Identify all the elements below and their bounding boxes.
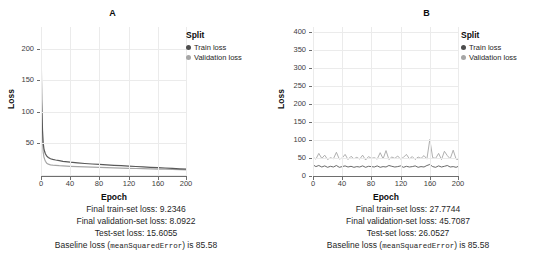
panel-a-xtick-label: 160	[152, 180, 165, 188]
ytick	[309, 68, 312, 69]
train-loss-line-b	[313, 165, 459, 168]
panel-a-xtick-label: 200	[180, 180, 193, 188]
gridline-v	[401, 27, 402, 176]
panel-b-xtick-label: 160	[424, 180, 437, 188]
panel-b-xtick-label: 0	[311, 180, 315, 188]
panel-b-ytick-label: 0	[272, 172, 306, 180]
baseline-suffix: ) is 85.58	[182, 240, 217, 250]
baseline-prefix: Baseline loss (	[327, 240, 382, 250]
validation-loss-line-a	[41, 29, 187, 170]
legend-title: Split	[186, 30, 242, 40]
panel-b-ytick-label: 50	[272, 154, 306, 162]
gridline-v	[158, 27, 159, 176]
panel-b-xtick-label: 200	[452, 180, 465, 188]
panel-a-caption: Final train-set loss: 9.2346 Final valid…	[0, 203, 272, 252]
train-loss-dot	[186, 45, 191, 50]
panel-a-ytick-label: 50	[0, 139, 34, 147]
legend-item-train-loss[interactable]: Train loss	[461, 43, 517, 52]
panel-a-title: A	[0, 8, 225, 18]
gridline-v	[430, 27, 431, 176]
panel-a-xtick-label: 120	[123, 180, 136, 188]
validation-loss-line-b	[313, 140, 459, 161]
gridline-h	[313, 86, 459, 87]
gridline-h	[41, 143, 187, 144]
panel-b-xtick-label: 40	[338, 180, 346, 188]
ytick	[309, 32, 312, 33]
legend-item-label: Train loss	[194, 43, 226, 52]
panel-b-ytick-label: 150	[272, 118, 306, 126]
panel-a-xtick-label: 80	[95, 180, 103, 188]
gridline-h	[313, 32, 459, 33]
final-validation-loss-text: Final validation-set loss: 8.0922	[0, 215, 272, 227]
gridline-v	[129, 27, 130, 176]
panel-b-xtick-label: 80	[367, 180, 375, 188]
gridline-h	[41, 80, 187, 81]
panel-b-ytick-label: 300	[272, 64, 306, 72]
gridline-v	[458, 27, 459, 176]
gridline-v	[371, 27, 372, 176]
panel-a-legend: Split Train loss Validation loss	[186, 30, 242, 62]
legend-item-label: Validation loss	[194, 53, 242, 62]
panel-a-x-axis-title: Epoch	[41, 192, 187, 202]
panel-b-xtick-label: 120	[395, 180, 408, 188]
ytick	[309, 86, 312, 87]
gridline-h	[313, 50, 459, 51]
train-loss-dot	[461, 45, 466, 50]
validation-loss-dot	[461, 55, 466, 60]
test-set-loss-text: Test-set loss: 26.0527	[272, 227, 544, 239]
gridline-h	[313, 122, 459, 123]
panel-b-caption: Final train-set loss: 27.7744 Final vali…	[272, 203, 544, 252]
ytick	[309, 50, 312, 51]
ytick	[37, 49, 40, 50]
gridline-v	[342, 27, 343, 176]
baseline-loss-text: Baseline loss (meanSquaredError) is 85.5…	[0, 239, 272, 252]
gridline-h	[41, 49, 187, 50]
validation-loss-dot	[186, 55, 191, 60]
ytick	[309, 158, 312, 159]
gridline-v	[99, 27, 100, 176]
legend-item-label: Train loss	[469, 43, 501, 52]
gridline-h	[41, 112, 187, 113]
panel-b-ytick-label: 400	[272, 28, 306, 36]
panel-b-x-axis-title: Epoch	[313, 192, 459, 202]
loss-curves-figure: A	[0, 0, 545, 266]
panel-b: B	[272, 0, 544, 266]
baseline-metric-name: meanSquaredError	[382, 242, 454, 250]
ytick	[37, 143, 40, 144]
ytick	[37, 112, 40, 113]
ytick	[309, 140, 312, 141]
panel-a-ytick-label: 200	[0, 45, 34, 53]
legend-title: Split	[461, 30, 517, 40]
panel-b-legend: Split Train loss Validation loss	[461, 30, 517, 62]
ytick	[37, 80, 40, 81]
final-train-loss-text: Final train-set loss: 27.7744	[272, 203, 544, 215]
panel-b-plot-area	[313, 27, 459, 176]
legend-item-train-loss[interactable]: Train loss	[186, 43, 242, 52]
ytick	[309, 176, 312, 177]
gridline-h	[313, 104, 459, 105]
final-validation-loss-text: Final validation-set loss: 45.7087	[272, 215, 544, 227]
panel-a-y-axis-title: Loss	[6, 79, 16, 119]
panel-a-plot-area	[41, 27, 187, 176]
panel-b-ytick-label: 350	[272, 46, 306, 54]
ytick	[309, 122, 312, 123]
gridline-v	[313, 27, 314, 176]
legend-item-label: Validation loss	[469, 53, 517, 62]
baseline-loss-text: Baseline loss (meanSquaredError) is 85.5…	[272, 239, 544, 252]
baseline-prefix: Baseline loss (	[55, 240, 110, 250]
panel-a-xtick-label: 0	[39, 180, 43, 188]
panel-a: A	[0, 0, 272, 266]
legend-item-validation-loss[interactable]: Validation loss	[186, 53, 242, 62]
gridline-v	[70, 27, 71, 176]
panel-b-ytick-label: 100	[272, 136, 306, 144]
panel-a-xtick-label: 40	[66, 180, 74, 188]
baseline-suffix: ) is 85.58	[454, 240, 489, 250]
gridline-h	[313, 140, 459, 141]
test-set-loss-text: Test-set loss: 15.6055	[0, 227, 272, 239]
gridline-v	[41, 27, 42, 176]
panel-b-x-axis	[313, 176, 459, 177]
legend-item-validation-loss[interactable]: Validation loss	[461, 53, 517, 62]
baseline-metric-name: meanSquaredError	[110, 242, 182, 250]
panel-b-y-axis-title: Loss	[276, 79, 286, 119]
final-train-loss-text: Final train-set loss: 9.2346	[0, 203, 272, 215]
